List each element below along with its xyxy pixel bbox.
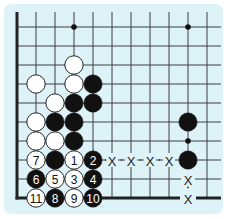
black-stone — [84, 75, 102, 93]
black-stone — [179, 151, 197, 169]
black-stone — [179, 113, 197, 131]
black-stone — [46, 113, 64, 131]
move-number-label: 2 — [90, 154, 97, 168]
x-mark: X — [108, 154, 117, 169]
move-number-label: 6 — [33, 173, 40, 187]
x-mark: X — [127, 154, 136, 169]
x-mark: X — [146, 154, 155, 169]
dot-connector — [105, 159, 107, 161]
move-number-label: 7 — [33, 154, 40, 168]
x-mark: X — [184, 192, 193, 207]
white-stone — [27, 113, 45, 131]
white-stone — [27, 75, 45, 93]
dot-connector — [187, 187, 189, 189]
black-stone — [46, 151, 64, 169]
star-point — [185, 24, 191, 30]
white-stone — [65, 75, 83, 93]
x-mark: X — [184, 173, 193, 188]
white-stone — [46, 94, 64, 112]
dot-connector — [121, 159, 123, 161]
black-stone — [65, 94, 83, 112]
black-stone — [84, 94, 102, 112]
move-number-label: 8 — [52, 192, 59, 206]
black-stone — [65, 113, 83, 131]
move-number-label: 11 — [30, 192, 43, 206]
white-stone — [65, 56, 83, 74]
move-number-label: 1 — [71, 154, 78, 168]
move-number-label: 10 — [86, 192, 100, 206]
move-number-label: 5 — [52, 173, 59, 187]
dot-connector — [159, 159, 161, 161]
black-stone — [65, 132, 83, 150]
star-point — [185, 138, 191, 144]
move-number-label: 4 — [90, 173, 97, 187]
white-stone — [46, 132, 64, 150]
move-number-label: 9 — [71, 192, 78, 206]
go-board-diagram: XXXXXX7126534118910 — [0, 0, 230, 219]
dot-connector — [140, 159, 142, 161]
move-number-label: 3 — [71, 173, 78, 187]
white-stone — [27, 132, 45, 150]
x-mark: X — [165, 154, 174, 169]
star-point — [71, 24, 77, 30]
